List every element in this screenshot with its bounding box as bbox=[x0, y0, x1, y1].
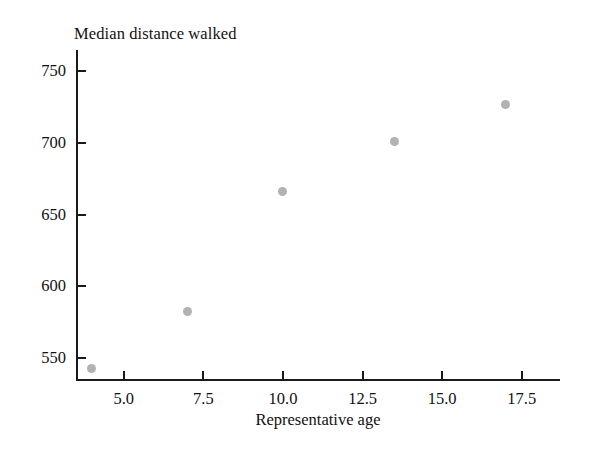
x-tick-mark bbox=[123, 371, 125, 379]
x-tick-label: 12.5 bbox=[328, 390, 398, 408]
x-tick-label: 7.5 bbox=[168, 390, 238, 408]
x-tick-label: 10.0 bbox=[248, 390, 318, 408]
x-axis-spine bbox=[76, 379, 560, 381]
y-tick-label: 550 bbox=[6, 349, 66, 367]
x-tick-mark bbox=[441, 371, 443, 379]
data-point bbox=[390, 137, 399, 146]
y-tick-label: 750 bbox=[6, 62, 66, 80]
data-point bbox=[87, 364, 96, 373]
x-tick-label: 5.0 bbox=[89, 390, 159, 408]
x-tick-mark bbox=[362, 371, 364, 379]
x-axis-label: Representative age bbox=[76, 410, 560, 430]
data-point bbox=[501, 100, 510, 109]
y-tick-mark bbox=[78, 357, 86, 359]
scatter-chart-figure: Median distance walked 5.07.510.012.515.… bbox=[0, 0, 591, 453]
y-tick-label: 650 bbox=[6, 206, 66, 224]
y-tick-label: 700 bbox=[6, 134, 66, 152]
y-tick-mark bbox=[78, 285, 86, 287]
x-tick-label: 15.0 bbox=[407, 390, 477, 408]
x-tick-mark bbox=[282, 371, 284, 379]
x-tick-label: 17.5 bbox=[487, 390, 557, 408]
chart-title: Median distance walked bbox=[74, 24, 237, 44]
y-tick-mark bbox=[78, 70, 86, 72]
plot-area: 5.07.510.012.515.017.5 550600650700750 bbox=[76, 50, 560, 381]
y-tick-mark bbox=[78, 214, 86, 216]
data-point bbox=[183, 307, 192, 316]
y-axis-spine bbox=[76, 50, 78, 381]
x-tick-mark bbox=[202, 371, 204, 379]
x-tick-mark bbox=[521, 371, 523, 379]
data-point bbox=[278, 187, 287, 196]
y-tick-label: 600 bbox=[6, 277, 66, 295]
y-tick-mark bbox=[78, 142, 86, 144]
